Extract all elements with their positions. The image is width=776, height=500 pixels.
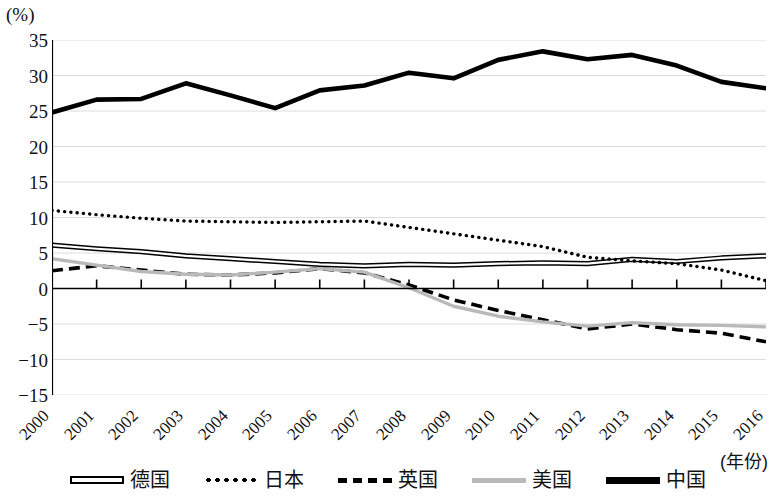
plot-svg xyxy=(52,40,766,395)
legend-swatch-dotted xyxy=(204,473,258,487)
series-line xyxy=(52,266,766,342)
legend-label: 英国 xyxy=(398,470,438,490)
legend-item[interactable]: 日本 xyxy=(204,470,304,490)
legend-item[interactable]: 英国 xyxy=(338,470,438,490)
x-axis-tick-label: 2011 xyxy=(507,407,543,443)
series-solid-gray xyxy=(52,259,766,327)
y-axis-tick-label: 5 xyxy=(4,244,48,263)
legend-swatch-thick-solid xyxy=(606,473,660,487)
x-axis-tick-label: 2001 xyxy=(61,407,97,443)
y-axis-tick-label: 25 xyxy=(4,102,48,121)
series-line xyxy=(52,51,766,112)
y-axis-tick-label: −5 xyxy=(4,315,48,334)
legend-item[interactable]: 德国 xyxy=(70,470,170,490)
legend-label: 美国 xyxy=(532,470,572,490)
x-axis-tick-label: 2008 xyxy=(373,407,409,443)
x-axis-tick-label: 2006 xyxy=(284,407,320,443)
x-axis-tick-label: 2004 xyxy=(195,407,231,443)
x-axis-tick-label: 2003 xyxy=(150,407,186,443)
series-thick-solid xyxy=(52,51,766,112)
x-axis-tick-label: 2007 xyxy=(328,407,364,443)
legend-item[interactable]: 美国 xyxy=(472,470,572,490)
y-axis-tick-label: 10 xyxy=(4,208,48,227)
line-chart: (%) (年份) 35302520151050−5−10−15 20002001… xyxy=(0,0,776,500)
x-axis-tick-label: 2014 xyxy=(641,407,677,443)
y-axis-tick-label: 35 xyxy=(4,31,48,50)
legend-swatch-dashed xyxy=(338,473,392,487)
chart-legend: 德国日本英国美国中国 xyxy=(0,470,776,490)
legend-swatch-double-line xyxy=(70,473,124,487)
legend-label: 德国 xyxy=(130,470,170,490)
legend-item[interactable]: 中国 xyxy=(606,470,706,490)
x-axis-tick-label: 2010 xyxy=(462,407,498,443)
y-axis-tick-label: −10 xyxy=(4,350,48,369)
y-axis-tick-label: 30 xyxy=(4,66,48,85)
x-axis-tick-label: 2005 xyxy=(239,407,275,443)
x-axis-tick-label: 2015 xyxy=(685,407,721,443)
y-axis-tick-label: 15 xyxy=(4,173,48,192)
x-axis-tick-label: 2009 xyxy=(418,407,454,443)
x-axis-tick-label: 2012 xyxy=(552,407,588,443)
series-line xyxy=(52,259,766,327)
series-lines xyxy=(52,51,766,341)
y-axis-tick-label: −15 xyxy=(4,386,48,405)
y-axis-tick-label: 20 xyxy=(4,137,48,156)
y-axis-tick-labels: 35302520151050−5−10−15 xyxy=(0,0,48,500)
series-dashed xyxy=(52,266,766,342)
legend-label: 中国 xyxy=(666,470,706,490)
x-axis-tick-label: 2013 xyxy=(596,407,632,443)
x-axis-tick-label: 2016 xyxy=(730,407,766,443)
legend-swatch-solid-gray xyxy=(472,473,526,487)
legend-label: 日本 xyxy=(264,470,304,490)
plot-area xyxy=(52,40,766,395)
y-axis-tick-label: 0 xyxy=(4,279,48,298)
x-axis-tick-label: 2002 xyxy=(105,407,141,443)
